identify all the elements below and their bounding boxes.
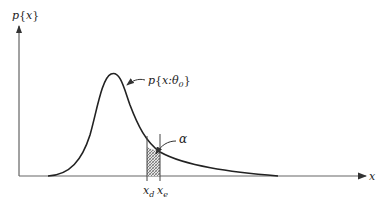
xd-label: xd <box>143 184 154 199</box>
curve-label-leader <box>127 79 145 85</box>
xe-label: xe <box>157 184 168 199</box>
x-axis-label: x <box>369 170 376 183</box>
y-axis-label: p{x} <box>12 9 39 22</box>
density-curve <box>48 73 278 176</box>
density-diagram: p{x} p{x:θ0} α x xd xe <box>0 0 384 205</box>
alpha-label: α <box>179 132 187 146</box>
curve-label: p{x:θ0} <box>148 74 191 89</box>
